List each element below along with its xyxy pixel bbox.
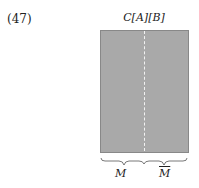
underbrace-m-icon <box>101 158 144 165</box>
underbrace-mbar-icon <box>144 158 187 165</box>
brace-label-m: M <box>115 167 126 180</box>
brace-label-m-bar: M <box>159 167 170 180</box>
underbrace-icons <box>0 0 199 188</box>
